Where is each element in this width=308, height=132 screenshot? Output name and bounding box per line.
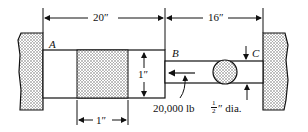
point-c-label: C xyxy=(252,48,259,59)
collar xyxy=(77,50,128,98)
dim-16in: 16″ xyxy=(208,12,224,23)
point-b-label: B xyxy=(172,48,179,59)
right-wall xyxy=(263,33,288,110)
rod-cross-section xyxy=(213,60,237,84)
dia-fraction-den: 2 xyxy=(212,108,216,115)
dim-collar-1in: 1″ xyxy=(96,115,106,126)
dim-step-1in: 1″ xyxy=(138,69,148,80)
left-wall xyxy=(18,33,43,110)
point-a-label: A xyxy=(49,39,56,50)
dim-20in: 20″ xyxy=(93,12,109,23)
dia-label: ″ dia. xyxy=(218,103,242,114)
fraction-bar xyxy=(211,107,217,108)
dia-fraction-num: 1 xyxy=(212,100,216,107)
load-label: 20,000 lb xyxy=(153,103,195,114)
